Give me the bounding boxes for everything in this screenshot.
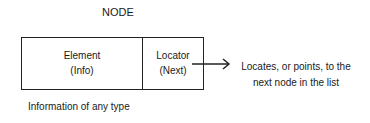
arrow-description-line2: next node in the list xyxy=(232,75,360,91)
arrow-description: Locates, or points, to the next node in … xyxy=(232,59,360,91)
arrow-description-line1: Locates, or points, to the xyxy=(232,59,360,75)
element-caption: Information of any type xyxy=(28,101,130,112)
element-cell: Element (Info) xyxy=(22,48,142,78)
diagram-title: NODE xyxy=(98,6,138,18)
pointer-arrow-icon xyxy=(190,56,232,72)
element-label: Element xyxy=(22,48,142,63)
element-sublabel: (Info) xyxy=(22,63,142,78)
